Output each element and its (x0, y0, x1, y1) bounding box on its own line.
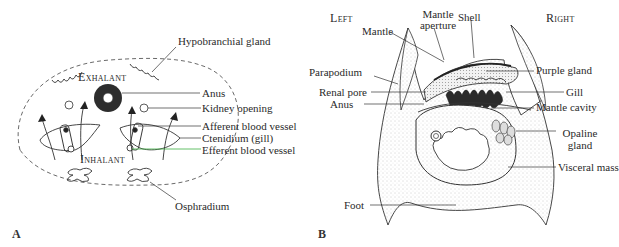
panel-label-a: A (12, 227, 21, 242)
label-osphradium: Osphradium (175, 200, 229, 212)
label-opaline-gland-line1: Opaline (558, 127, 602, 139)
anus-opening (103, 93, 113, 103)
hypobranchial-gland-right (130, 64, 159, 80)
kidney-opening-left (65, 101, 73, 109)
label-visceral-mass: Visceral mass (558, 161, 619, 173)
intestine-section (431, 131, 441, 141)
label-kidney-opening: Kidney opening (202, 102, 273, 114)
label-anus-b: Anus (330, 98, 353, 110)
ctenidium-right (120, 122, 180, 151)
panel-a-mantle-cavity-schematic: Exhalant Inhalant Hypobranchial gland An… (0, 0, 306, 247)
side-label-left: Left (330, 12, 353, 24)
label-renal-pore: Renal pore (319, 86, 367, 98)
kidney-opening-right (140, 104, 148, 112)
label-purple-gland: Purple gland (536, 64, 592, 76)
region-label-inhalant: Inhalant (80, 153, 125, 165)
label-mantle-aperture-line2: aperture (414, 19, 462, 31)
label-foot: Foot (344, 199, 364, 211)
region-label-exhalant: Exhalant (78, 71, 126, 83)
label-opaline-gland-line2: gland (558, 139, 602, 151)
side-label-right: Right (546, 12, 575, 24)
leader-lines-a (122, 47, 201, 200)
label-hypobranchial-gland: Hypobranchial gland (178, 35, 271, 47)
label-parapodium: Parapodium (309, 66, 362, 78)
panel-b-cross-section: Left Right Mantle Mantle aperture Shell … (306, 0, 612, 247)
label-efferent-blood-vessel: Efferent blood vessel (202, 144, 295, 156)
label-mantle-cavity: Mantle cavity (536, 101, 597, 113)
label-ctenidium: Ctenidium (gill) (202, 132, 273, 144)
label-shell: Shell (458, 11, 481, 23)
label-anus: Anus (202, 87, 225, 99)
panel-label-b: B (318, 227, 326, 242)
label-gill: Gill (566, 86, 583, 98)
label-afferent-blood-vessel: Afferent blood vessel (202, 120, 297, 132)
osphradium-right (127, 168, 152, 181)
label-mantle: Mantle (362, 25, 393, 37)
